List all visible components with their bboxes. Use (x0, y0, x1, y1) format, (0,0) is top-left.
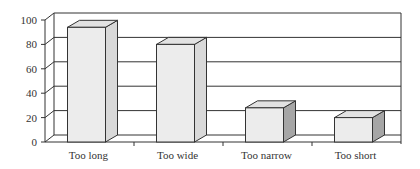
y-tick-label: 100 (21, 14, 38, 26)
bar-side (195, 37, 207, 142)
side-gridline (45, 135, 54, 142)
side-gridline (45, 86, 54, 93)
side-gridline (45, 111, 54, 118)
y-tick-label: 80 (26, 38, 38, 50)
x-category-label: Too wide (157, 149, 198, 161)
bar-front (68, 27, 106, 142)
bar-too-long (68, 20, 118, 142)
y-tick-label: 40 (26, 87, 38, 99)
bars (68, 20, 385, 142)
bar-chart: 020406080100Too longToo wideToo narrowTo… (0, 0, 420, 169)
side-gridline (45, 13, 54, 20)
x-category-label: Too narrow (241, 149, 292, 161)
bar-too-short (335, 111, 385, 142)
bar-front (246, 108, 284, 142)
bar-too-wide (157, 37, 207, 142)
bar-front (157, 44, 195, 142)
side-gridline (45, 62, 54, 69)
bar-too-narrow (246, 101, 296, 142)
x-category-label: Too short (335, 149, 377, 161)
bar-front (335, 118, 373, 142)
x-category-label: Too long (69, 149, 109, 161)
y-tick-label: 60 (26, 63, 38, 75)
y-tick-label: 20 (26, 112, 38, 124)
bar-side (106, 20, 118, 142)
side-gridline (45, 37, 54, 44)
y-tick-label: 0 (32, 136, 38, 148)
